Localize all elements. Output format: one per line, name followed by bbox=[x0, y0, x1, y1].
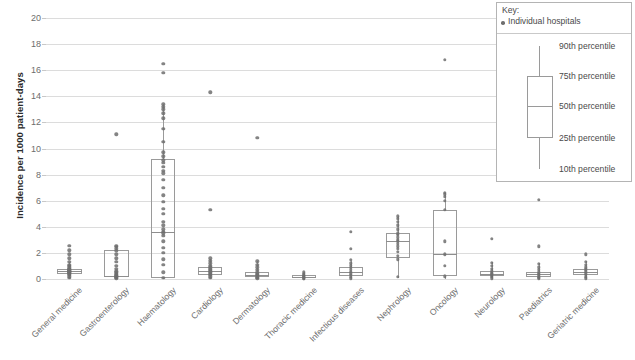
data-point-individual-hospital bbox=[162, 127, 165, 130]
data-point-individual-hospital bbox=[162, 155, 165, 158]
data-point-individual-hospital bbox=[443, 195, 446, 198]
y-axis-tick-label: 18 bbox=[31, 39, 41, 49]
y-axis-tick-label: 10 bbox=[31, 144, 41, 154]
y-axis-tick-label: 8 bbox=[36, 170, 41, 180]
data-point-individual-hospital bbox=[349, 258, 352, 261]
box-plot-group[interactable] bbox=[281, 18, 328, 279]
x-axis-category-label: Cardiology bbox=[189, 285, 225, 321]
data-point-individual-hospital bbox=[115, 132, 118, 135]
data-point-individual-hospital bbox=[255, 260, 258, 263]
data-point-individual-hospital bbox=[537, 245, 540, 248]
box-plot-group[interactable] bbox=[93, 18, 140, 279]
x-axis-category-label: Neurology bbox=[472, 285, 507, 320]
data-point-individual-hospital bbox=[443, 58, 446, 61]
x-axis-category-label: Nephrology bbox=[375, 285, 413, 323]
data-point-individual-hospital bbox=[396, 275, 399, 278]
y-axis-tick-label: 16 bbox=[31, 65, 41, 75]
data-point-individual-hospital bbox=[209, 91, 212, 94]
data-point-individual-hospital bbox=[68, 256, 71, 259]
data-point-individual-hospital bbox=[162, 151, 165, 154]
data-point-individual-hospital bbox=[396, 220, 399, 223]
data-point-individual-hospital bbox=[255, 136, 258, 139]
data-point-individual-hospital bbox=[162, 276, 165, 279]
data-point-individual-hospital bbox=[396, 224, 399, 227]
x-axis-category-label: Dermatology bbox=[231, 285, 273, 327]
data-point-individual-hospital bbox=[162, 112, 165, 115]
legend-divider bbox=[497, 33, 631, 34]
data-point-individual-hospital bbox=[349, 230, 352, 233]
y-axis-tick-label: 6 bbox=[36, 196, 41, 206]
legend-label-p90: 90th percentile bbox=[559, 41, 615, 51]
x-axis-category-label: Geriatric medicine bbox=[545, 285, 601, 341]
y-axis-tick-label: 2 bbox=[36, 248, 41, 258]
x-axis-category-label: Haematology bbox=[135, 285, 178, 328]
axis-tick-mark bbox=[42, 279, 46, 280]
y-axis-tick-label: 20 bbox=[31, 13, 41, 23]
data-point-individual-hospital bbox=[396, 228, 399, 231]
box-plot-group[interactable] bbox=[234, 18, 281, 279]
box-plot-group[interactable] bbox=[187, 18, 234, 279]
data-point-individual-hospital bbox=[537, 198, 540, 201]
legend-title: Key: bbox=[502, 5, 519, 15]
x-axis-category-label: Oncology bbox=[427, 285, 460, 318]
x-axis-category-label: Paediatrics bbox=[517, 285, 554, 322]
gridline bbox=[46, 279, 609, 280]
y-axis-tick-label: 0 bbox=[36, 274, 41, 284]
box-plot-group[interactable] bbox=[46, 18, 93, 279]
data-point-individual-hospital bbox=[162, 108, 165, 111]
legend-label-p25: 25th percentile bbox=[559, 133, 615, 143]
legend-individual-hospitals-label: Individual hospitals bbox=[508, 16, 581, 26]
x-axis-category-label: Gastroenterology bbox=[78, 285, 132, 339]
legend-label-p10: 10th percentile bbox=[559, 164, 615, 174]
legend-upper-whisker bbox=[539, 46, 540, 76]
y-axis-tick-label: 14 bbox=[31, 91, 41, 101]
box-plot-group[interactable] bbox=[374, 18, 421, 279]
data-point-individual-hospital bbox=[162, 140, 165, 143]
data-point-individual-hospital bbox=[443, 275, 446, 278]
data-point-individual-hospital bbox=[162, 62, 165, 65]
data-point-individual-hospital bbox=[490, 237, 493, 240]
legend-label-p50: 50th percentile bbox=[559, 101, 615, 111]
box-plot-group[interactable] bbox=[140, 18, 187, 279]
y-axis-tick-label: 4 bbox=[36, 222, 41, 232]
chart-legend: Key: Individual hospitals 90th percentil… bbox=[496, 2, 632, 182]
box-plot-group[interactable] bbox=[421, 18, 468, 279]
data-point-individual-hospital bbox=[349, 247, 352, 250]
data-point-individual-hospital bbox=[396, 258, 399, 261]
data-point-individual-hospital bbox=[209, 208, 212, 211]
data-point-individual-hospital bbox=[68, 253, 71, 256]
data-point-individual-hospital bbox=[68, 249, 71, 252]
y-axis-tick-label: 12 bbox=[31, 117, 41, 127]
legend-median-line bbox=[527, 106, 553, 107]
box-plot-group[interactable] bbox=[328, 18, 375, 279]
legend-label-p75: 75th percentile bbox=[559, 71, 615, 81]
chart-root: Incidence per 1000 patient-days 02468101… bbox=[0, 0, 635, 360]
y-axis-title: Incidence per 1000 patient-days bbox=[14, 31, 25, 261]
data-point-individual-hospital bbox=[68, 244, 71, 247]
data-point-individual-hospital bbox=[443, 199, 446, 202]
data-point-individual-hospital bbox=[490, 261, 493, 264]
data-point-individual-hospital bbox=[537, 262, 540, 265]
legend-box bbox=[527, 76, 553, 138]
data-point-individual-hospital bbox=[584, 253, 587, 256]
legend-lower-whisker bbox=[539, 138, 540, 169]
data-point-individual-hospital bbox=[162, 117, 165, 120]
data-point-individual-hospital bbox=[162, 71, 165, 74]
individual-hospital-dot-icon bbox=[501, 21, 505, 25]
